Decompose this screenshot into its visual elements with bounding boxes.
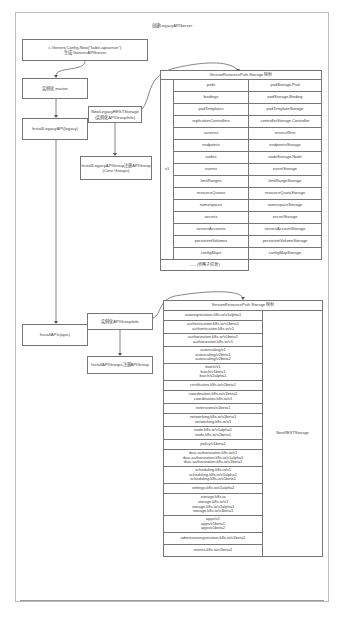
apis-storage-table: VersionResourcePath Storage 映射 autoregis… xyxy=(163,300,323,557)
apis-group-cell: rbac.authorization.k8s.io/v1rbac.authori… xyxy=(164,450,263,467)
legacy-table-header: VersionResourcePath Storage 映射 xyxy=(161,71,322,80)
legacy-resource: bindings xyxy=(174,92,249,104)
api-version: settings.k8s.io/v1alpha1 xyxy=(165,486,261,491)
install-legacy-api-box: InstallLegacyAPI(legacy) xyxy=(22,118,88,140)
apis-storage-label: NewRESTStorage xyxy=(263,311,323,557)
legacy-resource: nodes xyxy=(174,152,249,164)
apis-group-cell: policy/v1beta1 xyxy=(164,440,263,450)
install-api-groups-label: InstallAPIGroups注册APIGroup xyxy=(91,362,149,367)
apis-group-cell: authentication.k8s.io/v1beta1authenticat… xyxy=(164,321,263,334)
apis-group-cell: storage.k8s.iostorage.k8s.io/v1storage.k… xyxy=(164,494,263,516)
caption-divider xyxy=(20,600,324,601)
legacy-resource: services xyxy=(174,128,249,140)
install-apis-box: InstallAPIs(apis) xyxy=(22,324,88,346)
generic-config-box: c.GenericConfig.New("kube-apiserver") 生成… xyxy=(22,39,148,61)
legacy-storage: configMapStorage xyxy=(249,248,322,260)
legacy-resource: events xyxy=(174,164,249,176)
legacy-resource: pods xyxy=(174,80,249,92)
api-version: rbac.authorization.k8s.io/v1beta1 xyxy=(165,460,261,465)
legacy-storage: eventStorage xyxy=(249,164,322,176)
api-version: authentication.k8s.io/v1 xyxy=(165,327,261,332)
legacy-storage: serviceAccountStorage xyxy=(249,224,322,236)
legacy-storage: limitRangeStorage xyxy=(249,176,322,188)
legacy-resource: replicationControllers xyxy=(174,116,249,128)
api-version: autoregistration.k8s.io/v1alpha1 xyxy=(165,313,261,318)
legacy-storage: resourceQuotaStorage xyxy=(249,188,322,200)
legacy-storage: podTemplateStorage xyxy=(249,104,322,116)
legacy-storage: podStorage.Binding xyxy=(249,92,322,104)
apis-group-cell: autoregistration.k8s.io/v1alpha1 xyxy=(164,311,263,321)
api-version: admissionregistration.k8s.io/v1beta1 xyxy=(165,536,261,541)
legacy-storage: serviceRest xyxy=(249,128,322,140)
legacy-resource: configMaps xyxy=(174,248,249,260)
legacy-resource: namespaces xyxy=(174,200,249,212)
new-legacy-rest-storage-line2: (实例化APIGroupInfo) xyxy=(95,115,135,120)
install-legacy-api-group-line2: (Core Groups) xyxy=(103,168,130,173)
legacy-storage: namespaceStorage xyxy=(249,200,322,212)
legacy-storage-table: VersionResourcePath Storage 映射 v1 pods p… xyxy=(160,70,322,271)
apis-group-cell: batch/v1batch/v1beta1batch/v2alpha1 xyxy=(164,364,263,381)
api-version: events.k8s.io/v1beta1 xyxy=(165,548,261,553)
new-legacy-rest-storage-box: NewLegacyRESTStorage (实例化APIGroupInfo) xyxy=(88,106,142,123)
diagram-title: 创建LegacyAPIServer xyxy=(16,22,328,28)
apis-group-cell: certificates.k8s.io/v1beta1 xyxy=(164,381,263,391)
apis-group-cell: admissionregistration.k8s.io/v1beta1 xyxy=(164,533,263,545)
apis-group-cell: node.k8s.io/v1alpha1node.k8s.io/v1beta1 xyxy=(164,427,263,440)
api-version: apps/v1beta2 xyxy=(165,526,261,531)
api-version: autoscaling/v2beta2 xyxy=(165,357,261,362)
api-version: networking.k8s.io/v1 xyxy=(165,420,261,425)
legacy-resource: serviceAccounts xyxy=(174,224,249,236)
legacy-storage: nodeStorage.Node xyxy=(249,152,322,164)
apis-group-cell: extensions/v1beta1 xyxy=(164,404,263,414)
api-version: extensions/v1beta1 xyxy=(165,406,261,411)
install-api-groups-box: InstallAPIGroups注册APIGroup xyxy=(87,356,153,374)
legacy-resource: persistentVolumes xyxy=(174,236,249,248)
apis-group-cell: apps/v1apps/v1beta1apps/v1beta2 xyxy=(164,516,263,533)
api-version: coordination.k8s.io/v1 xyxy=(165,397,261,402)
legacy-storage: endpointsStorage xyxy=(249,140,322,152)
instantiate-api-groups-label: 实例化APIGroupInfo xyxy=(101,319,138,324)
apis-group-cell: networking.k8s.io/v1beta1networking.k8s.… xyxy=(164,414,263,427)
legacy-resource: secrets xyxy=(174,212,249,224)
api-version: batch/v2alpha1 xyxy=(165,374,261,379)
api-version: policy/v1beta1 xyxy=(165,442,261,447)
legacy-storage: persistentVolumeStorage xyxy=(249,236,322,248)
instantiate-api-groups-box: 实例化APIGroupInfo xyxy=(87,313,153,330)
install-legacy-api-group-box: InstallLegacyAPIGroup注册APIGroup (Core Gr… xyxy=(80,156,152,180)
legacy-table-footer: ...... (省略子资源) xyxy=(161,260,249,271)
apis-group-cell: authorization.k8s.io/v1beta1authorizatio… xyxy=(164,334,263,347)
legacy-storage: secretStorage xyxy=(249,212,322,224)
instantiate-master-box: 实例化 master xyxy=(22,78,88,99)
api-version: scheduling.k8s.io/v1beta1 xyxy=(165,477,261,482)
api-version: node.k8s.io/v1beta1 xyxy=(165,433,261,438)
apis-group-cell: settings.k8s.io/v1alpha1 xyxy=(164,484,263,494)
legacy-resource: endpoints xyxy=(174,140,249,152)
api-version: certificates.k8s.io/v1beta1 xyxy=(165,383,261,388)
generic-config-line2: 生成 GenericAPIServer xyxy=(64,50,107,55)
api-version: storage.k8s.io/v1beta1 xyxy=(165,509,261,514)
apis-group-cell: scheduling.k8s.io/v1scheduling.k8s.io/v1… xyxy=(164,467,263,484)
api-version: authorization.k8s.io/v1 xyxy=(165,340,261,345)
install-apis-label: InstallAPIs(apis) xyxy=(40,332,70,337)
legacy-resource: resourceQuotas xyxy=(174,188,249,200)
legacy-resource: podTemplates xyxy=(174,104,249,116)
legacy-storage: controllerStorage.Controller xyxy=(249,116,322,128)
apis-group-cell: coordination.k8s.io/v1beta1coordination.… xyxy=(164,391,263,404)
legacy-resource: limitRanges xyxy=(174,176,249,188)
legacy-version-label: v1 xyxy=(161,80,174,260)
apis-group-cell: events.k8s.io/v1beta1 xyxy=(164,545,263,557)
apis-group-cell: autoscaling/v1autoscaling/v2beta1autosca… xyxy=(164,347,263,364)
instantiate-master-label: 实例化 master xyxy=(42,86,68,91)
install-legacy-api-label: InstallLegacyAPI(legacy) xyxy=(32,126,78,131)
legacy-storage: podStorage.Pod xyxy=(249,80,322,92)
apis-table-header: VersionResourcePath Storage 映射 xyxy=(164,301,323,311)
